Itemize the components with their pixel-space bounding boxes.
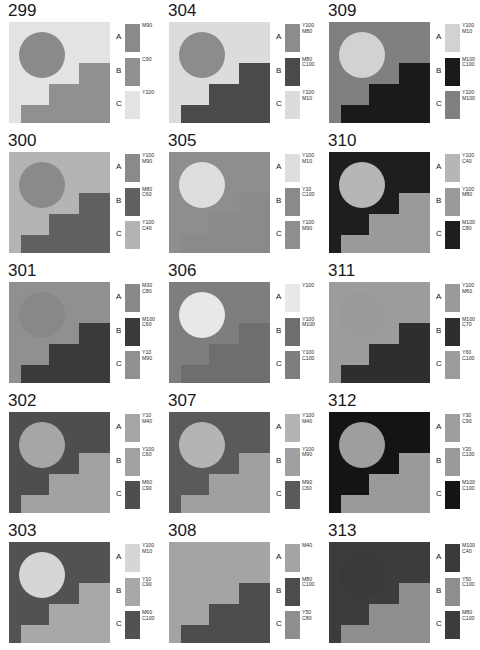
color-chip-label: M100 C100	[462, 480, 475, 491]
swatch-legend: AY30 C90BY20 C100CM100 C100	[436, 412, 480, 513]
color-chip-label: M80 C100	[462, 610, 474, 621]
legend-row: CM100 C80	[436, 219, 480, 253]
color-chip	[125, 414, 140, 442]
color-chip-label: Y100 C100	[302, 350, 314, 361]
swatch-panel: 308AM40BM80 C100CY50 C80	[160, 520, 320, 650]
test-figure	[9, 22, 110, 123]
legend-row: CY100 M10	[276, 89, 320, 123]
legend-row: CY100 M90	[276, 219, 320, 253]
color-chip	[445, 578, 460, 606]
panel-number: 308	[168, 522, 196, 539]
legend-row: BY100 C60	[116, 446, 160, 480]
legend-row: BY50 C100	[436, 576, 480, 610]
legend-letter: A	[436, 163, 441, 171]
legend-letter: C	[276, 100, 282, 108]
legend-row: BY10 C100	[276, 186, 320, 220]
color-chip	[285, 351, 300, 379]
legend-row: CY100 M100	[436, 89, 480, 123]
legend-letter: B	[116, 197, 121, 205]
color-chip	[125, 221, 140, 249]
test-figure	[169, 542, 270, 643]
color-chip-label: Y50 C80	[302, 610, 312, 621]
legend-letter: C	[116, 100, 122, 108]
color-chip	[445, 544, 460, 572]
color-chip	[445, 154, 460, 182]
panel-number: 302	[8, 392, 36, 409]
test-figure	[329, 542, 430, 643]
test-figure	[169, 412, 270, 513]
legend-letter: A	[436, 293, 441, 301]
color-chip-label: M100 C60	[142, 317, 155, 328]
color-chip	[445, 24, 460, 52]
test-figure	[169, 282, 270, 383]
color-chip	[285, 481, 300, 509]
color-chip	[125, 284, 140, 312]
legend-row: AY100	[276, 282, 320, 316]
color-chip	[285, 24, 300, 52]
color-chip-label: M40	[302, 543, 312, 549]
panel-number: 306	[168, 262, 196, 279]
panel-number: 299	[8, 2, 36, 19]
legend-row: AY30 C90	[436, 412, 480, 446]
legend-letter: A	[276, 293, 281, 301]
legend-letter: A	[276, 553, 281, 561]
legend-letter: C	[276, 230, 282, 238]
swatch-panel: 313AM100 C40BY50 C100CM80 C100	[320, 520, 480, 650]
color-chip	[125, 351, 140, 379]
test-figure	[169, 22, 270, 123]
legend-letter: C	[116, 230, 122, 238]
legend-letter: C	[436, 360, 442, 368]
color-chip-label: Y100 M100	[302, 317, 315, 328]
legend-letter: A	[276, 33, 281, 41]
legend-letter: C	[116, 620, 122, 628]
legend-letter: A	[116, 553, 121, 561]
color-chip	[445, 58, 460, 86]
color-chip-label: Y10 C90	[142, 577, 152, 588]
color-chip	[125, 611, 140, 639]
legend-row: BM100 C100	[436, 56, 480, 90]
color-chip-label: Y10 C100	[302, 187, 314, 198]
test-figure	[9, 282, 110, 383]
legend-letter: B	[436, 67, 441, 75]
legend-row: BY10 C90	[116, 576, 160, 610]
panel-number: 301	[8, 262, 36, 279]
color-chip-label: M100 C100	[462, 57, 475, 68]
swatch-panel: 309AY100 M10BM100 C100CY100 M100	[320, 0, 480, 130]
panel-number: 313	[328, 522, 356, 539]
swatch-legend: AY100 M10BY10 C100CY100 M90	[276, 152, 320, 253]
legend-row: AY100 C40	[436, 152, 480, 186]
color-chip-label: M80 C60	[142, 187, 152, 198]
legend-letter: B	[436, 327, 441, 335]
legend-row: CY60 C100	[436, 349, 480, 383]
color-chip	[125, 58, 140, 86]
legend-row: AY100 M10	[276, 152, 320, 186]
legend-row: CM60 C90	[116, 479, 160, 513]
color-chip	[125, 154, 140, 182]
color-chip	[125, 544, 140, 572]
color-chip-label: Y60 C100	[462, 350, 474, 361]
legend-row: BM80 C60	[116, 186, 160, 220]
legend-letter: C	[436, 100, 442, 108]
legend-letter: B	[436, 197, 441, 205]
swatch-panel: 312AY30 C90BY20 C100CM100 C100	[320, 390, 480, 520]
legend-row: AM100 C40	[436, 542, 480, 576]
swatch-panel: 307AY100 M40BY100 M90CM90 C60	[160, 390, 320, 520]
legend-letter: C	[436, 230, 442, 238]
panel-number: 311	[328, 262, 355, 279]
color-chip-label: M60 C100	[142, 610, 154, 621]
color-chip-label: Y100 M10	[462, 23, 474, 34]
legend-row: BM100 C60	[116, 316, 160, 350]
color-chip-label: Y20 C100	[462, 447, 474, 458]
legend-row: BY100 M80	[436, 186, 480, 220]
color-chip-label: Y100 M40	[302, 413, 314, 424]
color-chip	[445, 448, 460, 476]
legend-row: BY20 C100	[436, 446, 480, 480]
color-chip-label: M60 C90	[142, 480, 152, 491]
legend-row: CY100	[116, 89, 160, 123]
color-chip	[285, 414, 300, 442]
legend-letter: B	[276, 457, 281, 465]
color-chip	[285, 611, 300, 639]
legend-row: BC90	[116, 56, 160, 90]
legend-row: CY50 C80	[276, 609, 320, 643]
color-chip	[445, 91, 460, 119]
